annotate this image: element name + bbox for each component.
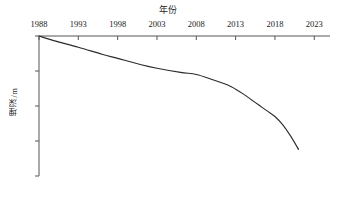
plot-area	[0, 0, 337, 197]
y-axis	[35, 36, 39, 176]
data-series	[39, 36, 299, 149]
groundwater-depth-chart: 年份 19881993199820032008201320182023 0510…	[0, 0, 337, 197]
x-axis	[39, 36, 330, 40]
